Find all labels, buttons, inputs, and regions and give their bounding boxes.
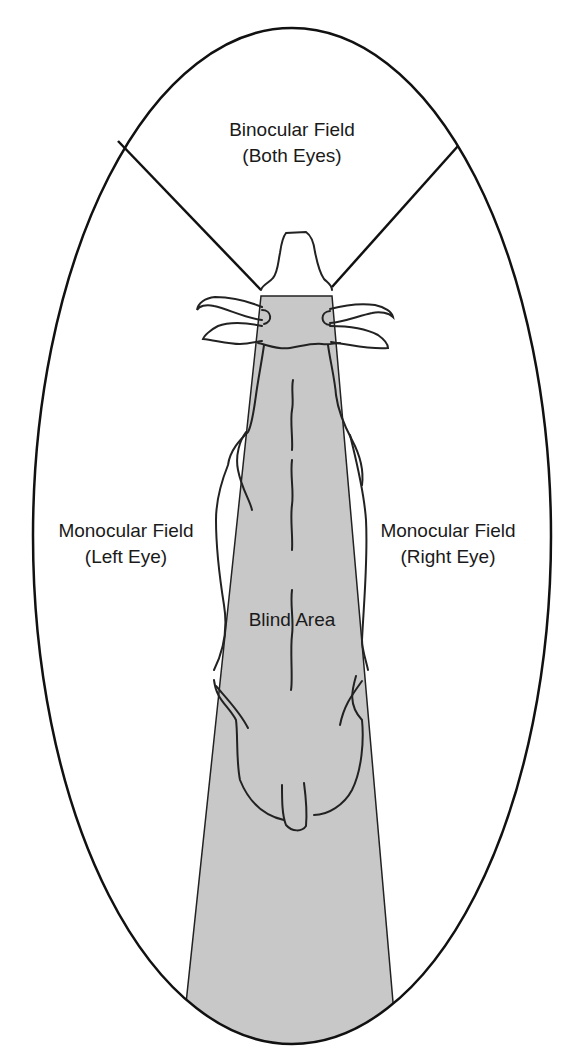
monocular-right-title: Monocular Field bbox=[358, 519, 538, 543]
blind-area-label: Blind Area bbox=[222, 608, 362, 632]
blind-area-region bbox=[180, 296, 398, 1060]
binocular-field-title: Binocular Field bbox=[192, 118, 392, 142]
monocular-right-label: Monocular Field (Right Eye) bbox=[358, 519, 538, 569]
monocular-left-label: Monocular Field (Left Eye) bbox=[36, 519, 216, 569]
binocular-field-label: Binocular Field (Both Eyes) bbox=[192, 118, 392, 168]
monocular-left-subtitle: (Left Eye) bbox=[36, 545, 216, 569]
monocular-left-title: Monocular Field bbox=[36, 519, 216, 543]
binocular-field-subtitle: (Both Eyes) bbox=[192, 144, 392, 168]
monocular-right-subtitle: (Right Eye) bbox=[358, 545, 538, 569]
